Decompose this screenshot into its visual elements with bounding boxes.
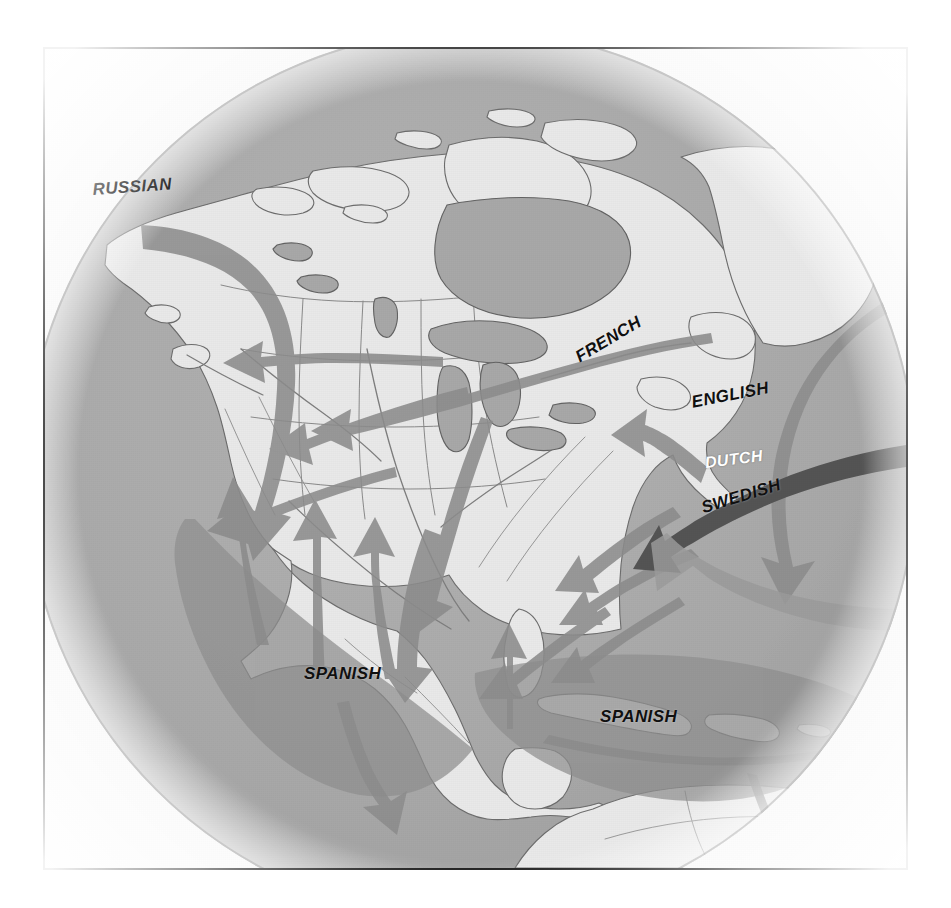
map-label-spanish-mexico: SPANISH <box>304 664 381 684</box>
globe-disc <box>45 49 906 868</box>
map-label-spanish-caribbean: SPANISH <box>600 707 677 727</box>
map-plate-frame: RUSSIAN FRENCH ENGLISH DUTCH SWEDISH SPA… <box>43 47 908 870</box>
map-basemap <box>45 49 906 868</box>
map-page: RUSSIAN FRENCH ENGLISH DUTCH SWEDISH SPA… <box>0 0 951 908</box>
map-plate-inner: RUSSIAN FRENCH ENGLISH DUTCH SWEDISH SPA… <box>45 49 906 868</box>
